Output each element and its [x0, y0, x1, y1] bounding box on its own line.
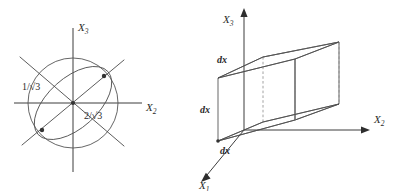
annotation-one-over-root-three: 1/√3: [22, 81, 40, 92]
box-front-left-face: [218, 59, 295, 141]
axis-label-x2: X2: [145, 101, 157, 116]
box-top-face: [218, 42, 339, 78]
axis-label-x1: X1: [198, 179, 209, 191]
origin-point: [71, 101, 75, 105]
intersection-point-upper-right: [102, 74, 106, 78]
edge-label-dx-top: dx: [217, 54, 227, 65]
axis-label-x3: X3: [222, 13, 234, 28]
intersection-point-lower-left: [40, 128, 44, 132]
box-upper-construction-edge: [218, 42, 339, 78]
panel-circle-ellipse: X3 X2 1/√3 2/√3: [0, 0, 197, 191]
annotation-two-over-root-three: 2/√3: [84, 110, 102, 121]
panel-volume-element: X3 X2 X1 dx dx dx: [197, 0, 394, 191]
box-origin-corner: [216, 139, 220, 143]
axis-label-x2: X2: [373, 113, 385, 128]
figure-root: X3 X2 1/√3 2/√3: [0, 0, 394, 191]
box-right-face: [295, 42, 339, 120]
axis-x3-arrowhead: [240, 8, 247, 17]
edge-label-dx-bottom: dx: [220, 145, 230, 156]
box-lower-construction-edge: [218, 104, 339, 141]
axis-label-x3: X3: [77, 21, 89, 36]
axis-x2-arrowhead: [361, 126, 370, 133]
box-bottom-face: [218, 104, 339, 141]
edge-label-dx-left: dx: [200, 104, 210, 115]
